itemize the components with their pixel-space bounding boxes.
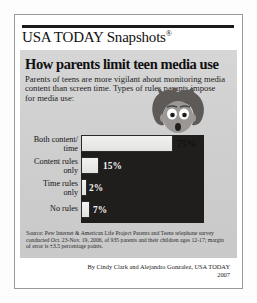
bar-segment	[81, 201, 90, 218]
bar-label: Both content/ time	[23, 135, 78, 153]
bar-segment	[81, 135, 173, 152]
bar-label: Content rules only	[23, 157, 78, 175]
bar-segment	[81, 157, 99, 174]
source-note: Source: Pew Internet & American Life Pro…	[26, 230, 228, 250]
byline-year: 2007	[28, 271, 230, 279]
chart-row: Time rules only 2%	[23, 179, 234, 201]
snapshot-graphic: USA TODAY Snapshots® How parents limit t…	[0, 0, 257, 303]
bar-segment	[81, 179, 87, 196]
chart-row: Content rules only 15%	[23, 156, 234, 178]
bar-value: 7%	[93, 205, 107, 215]
bar-label: No rules	[23, 204, 78, 213]
bar-label: Time rules only	[23, 179, 78, 197]
chart-row: No rules 7%	[23, 201, 234, 223]
bar-value: 2%	[89, 183, 103, 193]
bar-value: 75%	[177, 139, 196, 149]
registered-mark: ®	[166, 29, 172, 38]
brand-text: USA TODAY Snapshots	[22, 29, 166, 45]
content-panel: How parents limit teen media use Parents…	[20, 50, 237, 258]
bar-value: 15%	[103, 161, 122, 171]
chart-rows: Both content/ time 75% Content rules onl…	[23, 133, 234, 225]
bar-chart: Both content/ time 75% Content rules onl…	[23, 133, 234, 225]
brand-title: USA TODAY Snapshots®	[22, 29, 236, 48]
chart-row: Both content/ time 75%	[23, 133, 234, 155]
header-rule	[22, 25, 234, 28]
byline-credit: By Cindy Clark and Alejandro Gonzalez, U…	[28, 263, 230, 271]
byline: By Cindy Clark and Alejandro Gonzalez, U…	[28, 263, 230, 279]
page-title: How parents limit teen media use	[25, 57, 233, 72]
